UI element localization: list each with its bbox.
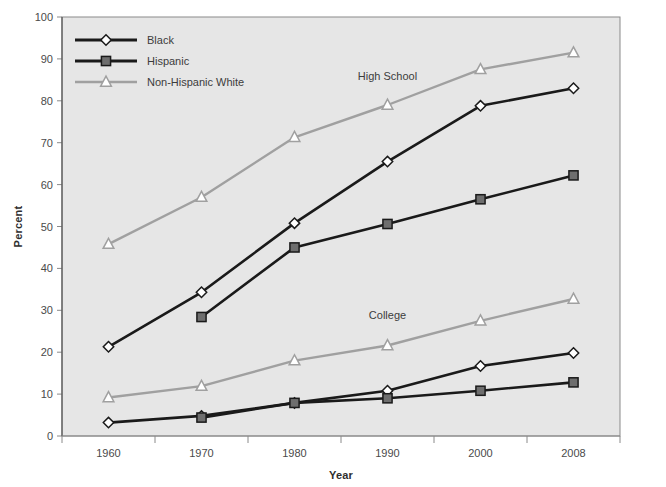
- x-tick-label: 1970: [189, 447, 213, 459]
- y-tick-label: 80: [41, 95, 53, 107]
- x-tick-label: 1960: [96, 447, 120, 459]
- data-point-marker: [569, 171, 578, 180]
- x-tick-label: 2000: [468, 447, 492, 459]
- y-tick-label: 0: [47, 430, 53, 442]
- data-point-marker: [197, 413, 206, 422]
- annotation-college: College: [369, 309, 406, 321]
- y-tick-label: 100: [35, 11, 53, 23]
- y-tick-label: 70: [41, 137, 53, 149]
- y-axis: 0102030405060708090100: [35, 11, 62, 442]
- y-tick-label: 10: [41, 388, 53, 400]
- data-point-marker: [383, 394, 392, 403]
- y-tick-label: 90: [41, 53, 53, 65]
- y-tick-label: 40: [41, 262, 53, 274]
- data-point-marker: [290, 398, 299, 407]
- legend-label-non-hispanic-white: Non-Hispanic White: [147, 76, 244, 88]
- data-point-marker: [476, 195, 485, 204]
- x-tick-label: 1980: [282, 447, 306, 459]
- x-axis: 196019701980199020002008: [62, 436, 620, 459]
- y-axis-title: Percent: [12, 205, 24, 247]
- y-tick-label: 50: [41, 221, 53, 233]
- x-tick-label: 2008: [561, 447, 585, 459]
- legend-label-hispanic: Hispanic: [147, 55, 190, 67]
- data-point-marker: [476, 386, 485, 395]
- data-point-marker: [569, 378, 578, 387]
- x-axis-title: Year: [329, 469, 354, 481]
- data-point-marker: [197, 312, 206, 321]
- y-tick-label: 20: [41, 346, 53, 358]
- chart-figure: 0102030405060708090100196019701980199020…: [0, 0, 666, 487]
- line-chart-canvas: 0102030405060708090100196019701980199020…: [0, 0, 666, 487]
- x-tick-label: 1990: [375, 447, 399, 459]
- data-point-marker: [290, 243, 299, 252]
- data-point-marker: [101, 56, 110, 65]
- y-tick-label: 30: [41, 304, 53, 316]
- y-tick-label: 60: [41, 179, 53, 191]
- data-point-marker: [383, 219, 392, 228]
- legend-label-black: Black: [147, 34, 174, 46]
- annotation-high-school: High School: [358, 70, 417, 82]
